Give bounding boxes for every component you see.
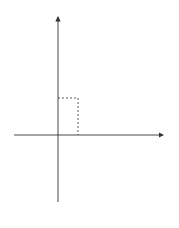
diagram [0, 0, 179, 228]
